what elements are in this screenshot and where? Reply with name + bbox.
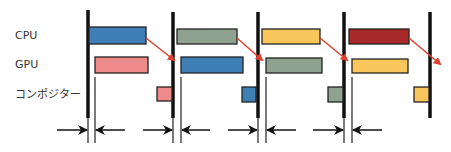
gpu-task-3 (266, 58, 322, 73)
pipeline-diagram (0, 0, 451, 152)
compositor-task-2 (242, 87, 256, 102)
gpu-task-1 (95, 57, 148, 73)
interval-guides (88, 77, 352, 143)
gpu-task-4 (352, 59, 408, 73)
cpu-task-4 (349, 29, 409, 44)
compositor-task-3 (328, 87, 343, 102)
gpu-task-2 (181, 57, 243, 73)
compositor-task-4 (414, 87, 429, 102)
cpu-task-1 (89, 27, 146, 44)
handoff-arrow-icon (409, 38, 440, 64)
compositor-task-1 (157, 87, 172, 101)
cpu-task-2 (177, 29, 237, 44)
handoff-arrow-icon (146, 38, 174, 60)
cpu-task-3 (262, 29, 320, 44)
